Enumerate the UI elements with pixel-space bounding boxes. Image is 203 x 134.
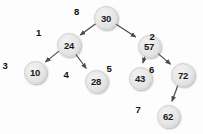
- tree-edge-n8-n1: [80, 24, 95, 35]
- tree-edge-n1-n4: [75, 53, 86, 68]
- tree-node-28[interactable]: 28: [85, 70, 108, 93]
- node-index-label-28: 4: [64, 69, 69, 80]
- node-index-label-10: 3: [3, 60, 8, 71]
- tree-node-10[interactable]: 10: [24, 61, 47, 84]
- node-index-label-57: 2: [150, 31, 155, 42]
- tree-node-30[interactable]: 30: [94, 6, 118, 30]
- node-index-label-24: 1: [36, 27, 41, 38]
- node-index-label-43: 5: [107, 63, 112, 74]
- tree-node-24[interactable]: 24: [57, 33, 81, 57]
- tree-edge-n6-n7: [172, 85, 178, 101]
- node-index-label-62: 7: [136, 104, 141, 115]
- tree-node-72[interactable]: 72: [171, 63, 195, 87]
- tree-node-62[interactable]: 62: [157, 105, 180, 128]
- binary-tree-diagram: 308241103284572435726627: [0, 0, 203, 134]
- tree-edge-n8-n2: [115, 23, 136, 37]
- node-index-label-72: 6: [149, 64, 154, 75]
- tree-edge-n1-n3: [46, 51, 59, 62]
- tree-edge-n2-n6: [156, 52, 170, 64]
- node-index-label-30: 8: [74, 6, 79, 17]
